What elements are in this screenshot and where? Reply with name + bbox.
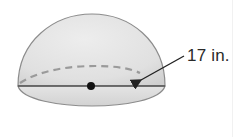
- hemisphere-diagram: 17 in.: [0, 0, 249, 137]
- center-dot: [87, 82, 95, 90]
- hemisphere-figure: [0, 0, 249, 137]
- scan-artifact-line: [232, 0, 233, 137]
- dimension-label: 17 in.: [187, 46, 230, 66]
- hemisphere-dome: [18, 14, 165, 86]
